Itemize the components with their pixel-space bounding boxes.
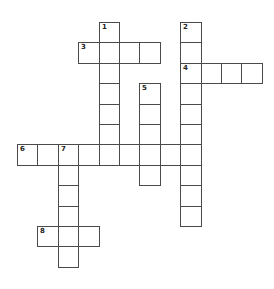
crossword-cell[interactable] [58,185,79,207]
clue-number: 6 [20,146,25,153]
crossword-cell[interactable]: 7 [58,144,79,166]
crossword-cell[interactable] [180,42,202,64]
crossword-grid: 12435678 [0,0,274,289]
crossword-cell[interactable] [78,144,100,166]
crossword-cell[interactable] [201,63,222,84]
crossword-cell[interactable] [58,246,79,268]
crossword-cell[interactable] [78,226,100,247]
crossword-cell[interactable] [221,63,242,84]
crossword-cell[interactable] [139,165,161,186]
crossword-cell[interactable] [99,124,120,145]
crossword-cell[interactable]: 8 [37,226,59,247]
crossword-cell[interactable] [180,83,202,105]
crossword-cell[interactable] [58,226,79,247]
crossword-cell[interactable] [180,104,202,125]
crossword-cell[interactable] [99,144,120,166]
crossword-cell[interactable] [241,63,263,84]
crossword-cell[interactable] [37,144,59,166]
crossword-cell[interactable] [180,124,202,145]
crossword-cell[interactable] [99,63,120,84]
crossword-cell[interactable] [99,104,120,125]
crossword-cell[interactable] [180,185,202,207]
crossword-cell[interactable] [180,206,202,227]
crossword-cell[interactable] [160,144,181,166]
crossword-cell[interactable] [139,42,161,64]
clue-number: 5 [142,85,147,92]
crossword-cell[interactable] [58,206,79,227]
crossword-cell[interactable]: 2 [180,22,202,43]
clue-number: 2 [183,24,188,31]
crossword-cell[interactable] [139,104,161,125]
crossword-cell[interactable] [58,165,79,186]
clue-number: 4 [183,65,188,72]
clue-number: 3 [81,44,86,51]
crossword-cell[interactable] [180,165,202,186]
crossword-cell[interactable]: 6 [17,144,38,166]
crossword-cell[interactable]: 1 [99,22,120,43]
crossword-cell[interactable] [139,124,161,145]
crossword-cell[interactable] [99,83,120,105]
crossword-cell[interactable] [139,144,161,166]
crossword-cell[interactable] [119,42,140,64]
crossword-cell[interactable] [119,144,140,166]
clue-number: 8 [40,228,45,235]
crossword-cell[interactable] [99,42,120,64]
crossword-cell[interactable]: 3 [78,42,100,64]
clue-number: 1 [102,24,107,31]
crossword-cell[interactable] [180,144,202,166]
crossword-cell[interactable]: 5 [139,83,161,105]
clue-number: 7 [61,146,66,153]
crossword-cell[interactable]: 4 [180,63,202,84]
